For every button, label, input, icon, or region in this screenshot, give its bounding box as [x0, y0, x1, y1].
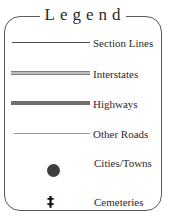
section-line-symbol-icon [12, 42, 90, 43]
legend-title: Legend [40, 4, 126, 26]
legend-item-highways: Highways [0, 96, 169, 112]
city-dot-icon [47, 164, 60, 177]
legend-item-cities-towns: Cities/Towns [0, 163, 169, 179]
legend-item-other-roads: Other Roads [0, 126, 169, 142]
highway-line-symbol-icon [11, 101, 90, 105]
legend-item-cemeteries: ‡ Cemeteries [0, 194, 169, 210]
legend-label: Section Lines [93, 35, 153, 51]
legend-label: Interstates [93, 66, 138, 82]
legend-item-section-lines: Section Lines [0, 35, 169, 51]
legend-label: Other Roads [93, 126, 148, 142]
legend-label: Cities/Towns [94, 155, 152, 171]
legend-label: Cemeteries [94, 194, 143, 210]
legend-item-interstates: Interstates [0, 66, 169, 82]
other-road-line-symbol-icon [14, 133, 90, 134]
legend-label: Highways [93, 96, 138, 112]
cemetery-cross-icon: ‡ [47, 193, 54, 209]
interstate-line-symbol-icon [11, 71, 90, 75]
